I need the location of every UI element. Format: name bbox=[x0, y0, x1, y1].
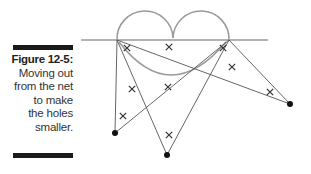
sight-line bbox=[167, 40, 229, 155]
sight-line bbox=[115, 40, 117, 133]
right-arch bbox=[173, 11, 229, 40]
hole-mark-x bbox=[267, 89, 273, 95]
sight-line bbox=[115, 40, 229, 133]
player-dot-left bbox=[112, 130, 118, 136]
hole-mark-x bbox=[120, 113, 126, 119]
sight-line bbox=[117, 40, 167, 155]
sight-line bbox=[229, 40, 290, 104]
hole-mark-x bbox=[129, 86, 135, 92]
sight-line bbox=[117, 40, 290, 104]
hole-mark-x bbox=[229, 64, 235, 70]
left-arch bbox=[117, 11, 173, 40]
net-diagram bbox=[0, 0, 311, 174]
hole-mark-x bbox=[166, 132, 172, 138]
player-dot-right bbox=[287, 101, 293, 107]
player-dot-bottom bbox=[164, 152, 170, 158]
hole-mark-x bbox=[166, 44, 172, 50]
